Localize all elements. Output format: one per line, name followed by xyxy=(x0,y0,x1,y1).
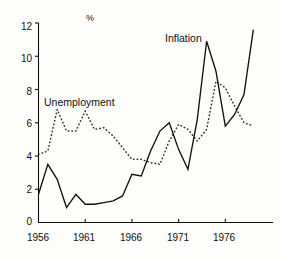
series-line-unemployment xyxy=(39,81,254,164)
line-chart: % 12 10 8 6 4 2 0 1956 1961 1966 1971 19… xyxy=(0,0,281,260)
plot-area xyxy=(0,0,281,260)
series-line-inflation xyxy=(39,30,254,208)
